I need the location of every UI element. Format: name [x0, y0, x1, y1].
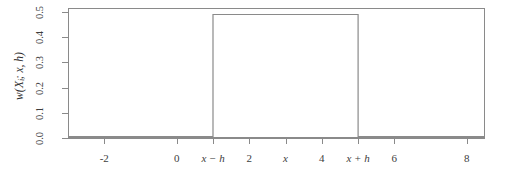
figure-canvas: w(Xi; x, h) 0.00.10.20.30.40.5 -20x − h2… — [0, 0, 506, 181]
y-axis-tick-0.3 — [62, 62, 68, 63]
x-axis-tick-8 — [467, 138, 468, 144]
y-axis-tick-label: 0.5 — [34, 0, 46, 28]
y-axis-tick-label-wrap: 0.0 — [0, 122, 58, 134]
y-axis-tick-label-wrap: 0.5 — [0, 0, 58, 8]
y-axis-tick-0.5 — [62, 12, 68, 13]
x-axis-line — [68, 138, 485, 139]
x-axis-tick-label: 8 — [464, 150, 470, 166]
y-axis-tick-0.1 — [62, 113, 68, 114]
x-axis-tick-xh — [358, 138, 359, 144]
x-axis-tick-label: -2 — [100, 150, 109, 166]
x-axis-tick-label: 0 — [174, 150, 180, 166]
x-axis-tick-label: x — [283, 150, 288, 166]
x-axis-tick-4 — [322, 138, 323, 144]
y-axis-tick-label-wrap: 0.4 — [0, 21, 58, 33]
y-axis-title-open: ( — [13, 88, 25, 92]
y-axis-line — [68, 12, 69, 138]
y-axis-tick-label-wrap: 0.2 — [0, 72, 58, 84]
y-axis-tick-0.2 — [62, 88, 68, 89]
plot-frame — [68, 8, 485, 138]
x-axis-tick-label: 6 — [392, 150, 398, 166]
x-axis-tick-0 — [177, 138, 178, 144]
x-axis-tick-label: 4 — [319, 150, 325, 166]
x-axis-tick-6 — [394, 138, 395, 144]
x-axis-tick--2 — [104, 138, 105, 144]
x-axis-tick-x — [286, 138, 287, 144]
x-axis-tick-label: x + h — [346, 150, 369, 166]
y-axis-tick-0.4 — [62, 37, 68, 38]
y-axis-title-comma: , — [13, 62, 25, 68]
y-axis-tick-label-wrap: 0.3 — [0, 46, 58, 58]
y-axis-tick-0.0 — [62, 138, 68, 139]
x-axis-tick-xh — [213, 138, 214, 144]
y-axis-tick-label-wrap: 0.1 — [0, 97, 58, 109]
x-axis-tick-label: 2 — [247, 150, 253, 166]
x-axis-tick-2 — [249, 138, 250, 144]
x-axis-tick-label: x − h — [201, 150, 224, 166]
